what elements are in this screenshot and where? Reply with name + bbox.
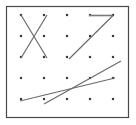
grid-dot-r2-c1 xyxy=(20,35,22,37)
grid-dot-r5-c1 xyxy=(20,98,22,100)
grid-dot-r4-c3 xyxy=(66,77,68,79)
figure-border-frame xyxy=(7,7,129,118)
grid-dot-r3-c3 xyxy=(66,56,68,58)
puzzle-figure xyxy=(0,0,136,125)
grid-dot-r1-c2 xyxy=(43,14,45,16)
grid-dot-r2-c5 xyxy=(112,35,114,37)
grid-dot-r2-c3 xyxy=(66,35,68,37)
grid-dot-r5-c3 xyxy=(66,98,68,100)
grid-dot-r3-c4 xyxy=(89,56,91,58)
puzzle-svg xyxy=(0,0,136,125)
grid-dot-r5-c4 xyxy=(89,98,91,100)
grid-dot-r1-c3 xyxy=(66,14,68,16)
grid-dot-r4-c1 xyxy=(20,77,22,79)
grid-dot-r2-c2 xyxy=(43,35,45,37)
grid-dot-r3-c2 xyxy=(43,56,45,58)
grid-dot-r4-c2 xyxy=(43,77,45,79)
grid-dot-r5-c2 xyxy=(43,98,45,100)
grid-dot-r3-c5 xyxy=(112,56,114,58)
grid-dot-r5-c5 xyxy=(112,98,114,100)
